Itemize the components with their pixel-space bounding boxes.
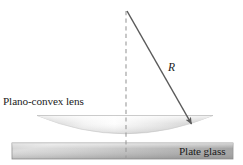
lens-sheen [37,116,213,134]
plate-glass-label: Plate glass [179,146,225,157]
optics-diagram: Plano-convex lens Plate glass R [0,0,243,165]
radius-arrow [127,11,192,124]
radius-label: R [168,62,175,74]
diagram-canvas [0,0,243,165]
plano-convex-lens-label: Plano-convex lens [3,96,84,107]
plano-convex-lens-shape [37,116,213,134]
